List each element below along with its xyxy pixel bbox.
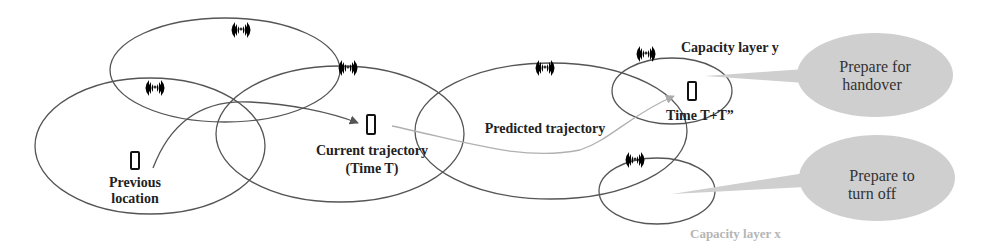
label-time-future: Time T+T”: [666, 108, 734, 123]
mobile-phone-icon: [131, 152, 139, 169]
past-trajectory-arrow: [153, 102, 358, 168]
cell-top: [110, 18, 340, 122]
cell-tower-icon: [146, 80, 165, 112]
mobile-phone-icon: [367, 115, 375, 134]
mobile-phone-icon: [688, 82, 696, 100]
label-previous-1: Previous: [109, 175, 161, 190]
cell-tower-icon: [339, 60, 358, 92]
cell-tower-icon: [637, 46, 656, 78]
label-capacity-y: Capacity layer y: [681, 40, 779, 55]
label-capacity-x: Capacity layer x: [690, 226, 781, 241]
label-current-1: Current trajectory: [316, 143, 428, 158]
cell-tower-icon: [626, 152, 645, 184]
handover-diagram: Previous location Current trajectory (Ti…: [0, 0, 989, 244]
label-current-2: (Time T): [346, 161, 399, 177]
callout-1-line1: Prepare for: [839, 58, 911, 76]
callout-2-line1: Prepare to: [849, 167, 914, 185]
label-predicted: Predicted trajectory: [485, 121, 606, 136]
label-previous-2: location: [111, 191, 159, 206]
cell-tower-icon: [536, 60, 555, 92]
callout-2-line2: turn off: [848, 185, 897, 202]
callout-1-line2: handover: [842, 76, 902, 93]
cell-tower-icon: [232, 22, 251, 54]
